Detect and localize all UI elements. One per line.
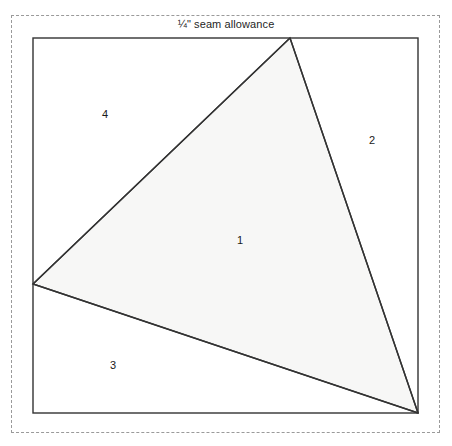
block-diagram <box>0 0 452 446</box>
pattern-sheet: ¼" seam allowance 1 2 3 4 <box>0 0 452 446</box>
